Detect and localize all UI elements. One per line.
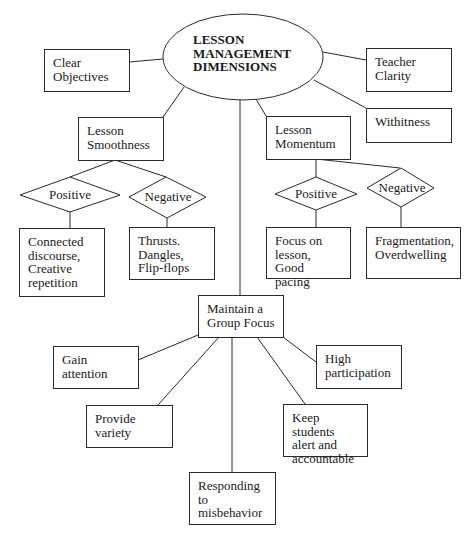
node-teacher-clarity: Teacher Clarity bbox=[366, 48, 452, 92]
connector-provide-variety bbox=[158, 337, 219, 405]
node-text: misbehavior bbox=[198, 506, 267, 520]
node-text: participation bbox=[325, 366, 393, 380]
node-text: Objectives bbox=[53, 70, 121, 84]
node-text: Clear bbox=[53, 56, 121, 70]
smoothness-positive-label: Positive bbox=[49, 187, 91, 203]
node-text: Responding bbox=[198, 479, 267, 493]
node-text: Dangles, bbox=[138, 248, 206, 262]
node-smoothness-negative-items: Thrusts. Dangles, Flip-flops bbox=[129, 227, 215, 280]
node-text: Teacher bbox=[375, 55, 443, 69]
node-text: Flip-flops bbox=[138, 261, 206, 275]
node-text: variety bbox=[95, 426, 164, 440]
node-text: Creative bbox=[28, 262, 96, 276]
node-text: alert and bbox=[292, 438, 359, 452]
node-text: Lesson bbox=[275, 123, 342, 137]
connector-smoothness-positive bbox=[70, 160, 115, 177]
center-title-line: DIMENSIONS bbox=[193, 60, 291, 74]
node-text: Provide bbox=[95, 412, 164, 426]
momentum-negative-label: Negative bbox=[379, 180, 426, 196]
node-high-participation: High participation bbox=[316, 345, 402, 389]
connector-gain-attention bbox=[138, 335, 198, 360]
node-momentum-negative-items: Fragmentation, Overdwelling bbox=[366, 227, 461, 279]
node-withitness: Withitness bbox=[366, 108, 452, 143]
connector-momentum bbox=[256, 99, 266, 116]
node-text: lesson, Good bbox=[275, 248, 342, 275]
node-text: repetition bbox=[28, 276, 96, 290]
node-lesson-momentum: Lesson Momentum bbox=[266, 116, 351, 160]
connector-high-participation bbox=[283, 337, 316, 362]
node-text: High bbox=[325, 352, 393, 366]
node-text: Gain bbox=[62, 353, 130, 367]
center-title: LESSON MANAGEMENT DIMENSIONS bbox=[193, 33, 291, 74]
node-text: attention bbox=[62, 367, 130, 381]
node-text: pacing bbox=[275, 275, 342, 289]
node-maintain-group-focus: Maintain a Group Focus bbox=[198, 295, 284, 338]
node-text: Group Focus bbox=[207, 316, 275, 330]
connector-teacher-clarity bbox=[323, 52, 366, 60]
node-text: Withitness bbox=[375, 115, 443, 129]
node-keep-students-alert: Keep students alert and accountable bbox=[283, 404, 368, 457]
node-text: Fragmentation, bbox=[375, 234, 452, 248]
node-text: Connected bbox=[28, 235, 96, 249]
node-text: to bbox=[198, 493, 267, 507]
momentum-positive-label: Positive bbox=[295, 186, 337, 202]
connector-clear-objectives bbox=[129, 59, 163, 62]
connector-keep-students bbox=[257, 337, 305, 404]
center-title-line: LESSON bbox=[193, 33, 291, 47]
node-text: Focus on bbox=[275, 234, 342, 248]
connector-momentum-negative bbox=[316, 159, 400, 168]
node-responding-to-misbehavior: Responding to misbehavior bbox=[189, 472, 276, 525]
node-text: Lesson bbox=[87, 124, 155, 138]
node-provide-variety: Provide variety bbox=[86, 405, 173, 448]
smoothness-negative-label: Negative bbox=[145, 189, 192, 205]
node-lesson-smoothness: Lesson Smoothness bbox=[78, 117, 164, 161]
node-text: discourse, bbox=[28, 249, 96, 263]
node-gain-attention: Gain attention bbox=[53, 346, 139, 389]
node-text: Maintain a bbox=[207, 302, 275, 316]
connector-smoothness bbox=[163, 87, 184, 117]
node-clear-objectives: Clear Objectives bbox=[44, 49, 130, 92]
node-text: Clarity bbox=[375, 69, 443, 83]
node-text: Momentum bbox=[275, 137, 342, 151]
node-text: Thrusts. bbox=[138, 234, 206, 248]
node-text: Overdwelling bbox=[375, 248, 452, 262]
node-smoothness-positive-items: Connected discourse, Creative repetition bbox=[19, 228, 105, 297]
connector-withitness bbox=[314, 80, 366, 108]
connector-smoothness-negative bbox=[115, 160, 166, 177]
node-momentum-positive-items: Focus on lesson, Good pacing bbox=[266, 227, 351, 279]
node-text: Keep students bbox=[292, 411, 359, 438]
node-text: Smoothness bbox=[87, 138, 155, 152]
center-title-line: MANAGEMENT bbox=[193, 47, 291, 61]
node-text: accountable bbox=[292, 452, 359, 466]
